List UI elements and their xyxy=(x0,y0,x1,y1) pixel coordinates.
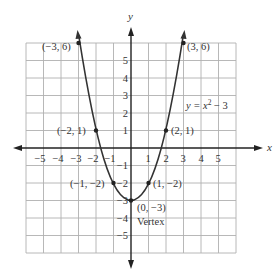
equation-label: y = x2 − 3 xyxy=(185,98,228,111)
arrow-right-icon xyxy=(254,145,263,151)
svg-text:−2: −2 xyxy=(117,178,128,189)
label-3-6: (3, 6) xyxy=(187,41,210,53)
svg-text:1: 1 xyxy=(145,153,150,164)
svg-text:−1: −1 xyxy=(117,160,128,171)
svg-text:−2: −2 xyxy=(87,153,98,164)
label-vertex: Vertex xyxy=(137,216,165,227)
svg-text:3: 3 xyxy=(180,153,185,164)
svg-text:2: 2 xyxy=(163,153,168,164)
label-m1-m2: (−1, −2) xyxy=(70,178,105,190)
y-axis-label: y xyxy=(127,10,133,22)
svg-text:−5: −5 xyxy=(34,153,45,164)
svg-text:−4: −4 xyxy=(117,213,129,224)
svg-text:1: 1 xyxy=(123,125,128,136)
svg-text:3: 3 xyxy=(123,90,128,101)
svg-text:−1: −1 xyxy=(104,153,115,164)
svg-text:5: 5 xyxy=(215,153,220,164)
svg-text:−5: −5 xyxy=(117,230,128,241)
arrow-down-icon xyxy=(128,260,134,269)
label-m3-6: (−3, 6) xyxy=(42,41,71,53)
x-axis xyxy=(13,145,263,151)
x-axis-label: x xyxy=(266,141,272,153)
svg-text:2: 2 xyxy=(123,108,128,119)
curve-arrow-right-icon xyxy=(181,30,187,39)
arrow-up-icon xyxy=(128,27,134,36)
label-1-m2: (1, −2) xyxy=(153,178,182,190)
label-2-1: (2, 1) xyxy=(171,125,194,137)
svg-text:−3: −3 xyxy=(117,195,128,206)
curve-arrow-left-icon xyxy=(76,30,82,39)
label-vertex-coords: (0, −3) xyxy=(137,202,166,214)
svg-text:4: 4 xyxy=(123,73,129,84)
svg-text:−3: −3 xyxy=(70,153,81,164)
svg-text:5: 5 xyxy=(123,55,128,66)
label-m2-1: (−2, 1) xyxy=(57,125,86,137)
arrow-left-icon xyxy=(13,145,22,151)
svg-text:4: 4 xyxy=(198,153,204,164)
parabola-graph: y x −5 −4 −3 −2 −1 1 2 3 4 5 5 4 3 2 1 −… xyxy=(0,0,277,276)
svg-text:−4: −4 xyxy=(52,153,64,164)
